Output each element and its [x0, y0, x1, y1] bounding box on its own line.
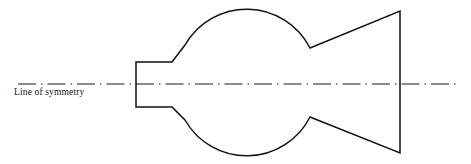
- line-of-symmetry-label: Line of symmetry: [14, 86, 84, 98]
- diagram-canvas: [0, 0, 471, 164]
- body-outline-path: [136, 9, 400, 156]
- symmetry-diagram: Line of symmetry: [0, 0, 471, 164]
